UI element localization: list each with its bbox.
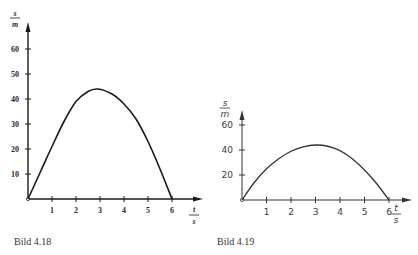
y-tick-label: 10	[11, 170, 19, 179]
x-tick-label: 1	[264, 207, 270, 217]
x-tick-label: 3	[98, 206, 102, 215]
y-tick-label: 20	[222, 170, 234, 180]
y-axis-label-numerator: s	[12, 9, 16, 18]
x-tick-label: 4	[337, 207, 343, 217]
x-tick-label: 6	[170, 206, 174, 215]
x-axis-arrow-icon	[193, 197, 203, 202]
y-axis-arrow-icon	[26, 22, 31, 32]
x-tick-label: 2	[74, 206, 78, 215]
y-axis-label-numerator: s	[223, 98, 228, 108]
x-axis-label-numerator: t	[193, 205, 196, 214]
series-line-s-t	[242, 145, 389, 200]
y-tick-label: 60	[11, 45, 19, 54]
x-tick-label: 3	[313, 207, 319, 217]
x-axis-label-numerator: t	[394, 203, 398, 213]
x-axis-label-denominator: s	[394, 215, 399, 225]
x-axis-label-denominator: s	[191, 217, 195, 226]
y-axis-label-denominator: m	[12, 20, 18, 29]
x-tick-label: 6	[386, 207, 392, 217]
y-tick-label: 60	[222, 120, 234, 130]
x-axis-arrow-icon	[402, 198, 412, 203]
y-tick-label: 40	[222, 145, 234, 155]
x-tick-label: 2	[288, 207, 294, 217]
x-tick-label: 5	[146, 206, 150, 215]
y-tick-label: 40	[11, 95, 19, 104]
y-tick-label: 50	[11, 70, 19, 79]
x-tick-label: 1	[50, 206, 54, 215]
figure-caption: Bild 4.19	[217, 236, 254, 247]
chart-bild-4-19: 123456204060smtsBild 4.19	[217, 98, 412, 247]
x-tick-label: 5	[362, 207, 368, 217]
figure: 123456102030405060smtsBild 4.18 12345620…	[0, 0, 418, 255]
y-tick-label: 20	[11, 145, 19, 154]
chart-bild-4-18: 123456102030405060smtsBild 4.18	[10, 9, 203, 247]
x-tick-label: 4	[122, 206, 126, 215]
series-line-s-t	[28, 89, 172, 199]
figure-caption: Bild 4.18	[14, 236, 51, 247]
y-axis-arrow-icon	[240, 110, 245, 120]
y-axis-label-denominator: m	[221, 109, 230, 119]
y-tick-label: 30	[11, 120, 19, 129]
